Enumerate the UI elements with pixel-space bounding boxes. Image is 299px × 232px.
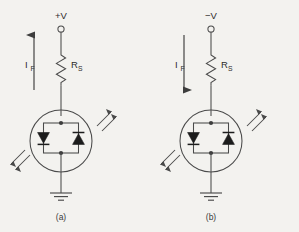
figure-background xyxy=(0,0,299,232)
resistor-label-a: R xyxy=(71,59,78,70)
supply-label-a: +V xyxy=(55,10,68,21)
supply-label-b: −V xyxy=(205,10,218,21)
current-label-b: I xyxy=(175,59,178,70)
resistor-subscript-b: S xyxy=(228,65,233,72)
junction-dot-top-b xyxy=(209,121,213,125)
current-subscript-a: F xyxy=(31,65,35,72)
current-label-a: I xyxy=(25,59,28,70)
panel-caption-b: (b) xyxy=(206,212,217,222)
resistor-label-b: R xyxy=(221,59,228,70)
panel-caption-a: (a) xyxy=(56,212,67,222)
junction-dot-top-a xyxy=(59,121,63,125)
resistor-subscript-a: S xyxy=(78,65,83,72)
current-subscript-b: F xyxy=(181,65,185,72)
led-driver-circuit-figure: +V I F R S (a) xyxy=(0,0,299,232)
